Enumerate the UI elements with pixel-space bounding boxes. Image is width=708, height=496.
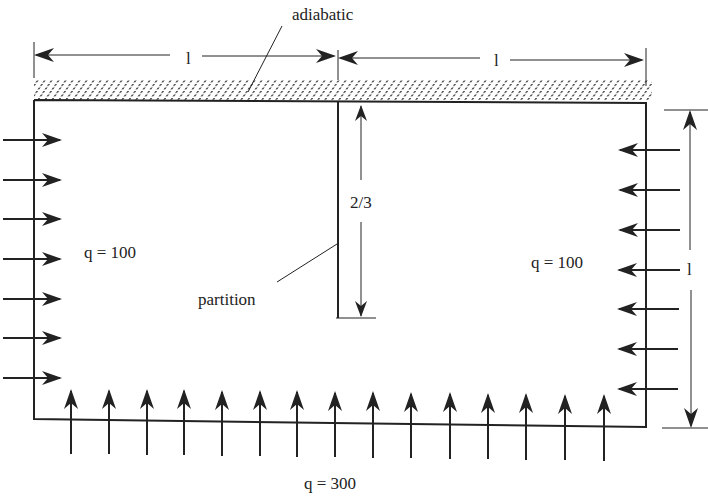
left-flux-arrows bbox=[3, 140, 60, 378]
partition-leader-line bbox=[277, 244, 337, 282]
height-label: l bbox=[687, 260, 692, 279]
bottom-flux-label: q = 300 bbox=[304, 474, 356, 493]
partition-height-label: 2/3 bbox=[350, 193, 372, 212]
width-dimension-left bbox=[34, 42, 334, 78]
left-flux-label: q = 100 bbox=[84, 243, 136, 262]
width-label-right: l bbox=[494, 51, 499, 70]
width-label-left: l bbox=[186, 49, 191, 68]
diagram-canvas: 2/3 partition adiabatic l l l q = 100 bbox=[0, 0, 708, 496]
adiabatic-wall bbox=[34, 80, 652, 100]
adiabatic-label: adiabatic bbox=[292, 5, 354, 24]
right-flux-arrows bbox=[619, 150, 680, 389]
right-flux-label: q = 100 bbox=[531, 253, 583, 272]
partition-label: partition bbox=[198, 290, 256, 309]
